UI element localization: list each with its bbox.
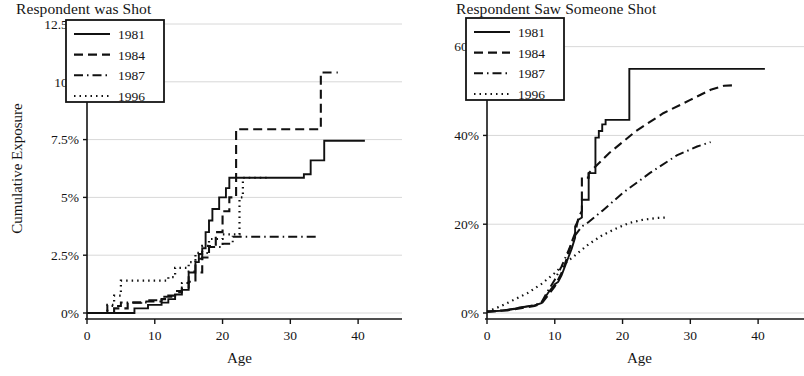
series-line-1996: [87, 178, 267, 313]
x-tick-label: 20: [216, 328, 230, 343]
x-tick-label: 0: [84, 328, 91, 343]
legend-box: [466, 18, 564, 100]
x-axis-title: Age: [227, 350, 252, 366]
series-line-1987: [487, 142, 711, 312]
y-tick-label: 7.5%: [51, 132, 79, 147]
y-axis-title: Cumulative Exposure: [9, 103, 25, 234]
x-axis-title: Age: [627, 350, 652, 366]
panel-respondent-saw-someone-shot: Respondent Saw Someone Shot 0%20%40%60%0…: [402, 0, 804, 376]
chart-svg-left: 0%2.5%5%7.5%10%12.5%010203040AgeCumulati…: [0, 0, 402, 376]
series-group: [487, 69, 765, 312]
legend: 1981198419871996: [466, 18, 564, 102]
legend-label-1981: 1981: [118, 27, 145, 42]
x-tick-label: 0: [484, 328, 491, 343]
legend-label-1996: 1996: [518, 87, 545, 102]
x-tick-label: 20: [616, 328, 630, 343]
legend-label-1996: 1996: [118, 89, 145, 104]
x-tick-label: 30: [684, 328, 698, 343]
figure-container: Respondent was Shot 0%2.5%5%7.5%10%12.5%…: [0, 0, 804, 376]
legend-label-1984: 1984: [518, 46, 545, 61]
y-tick-label: 0%: [61, 306, 79, 321]
y-tick-label: 40%: [454, 128, 479, 143]
panel-respondent-was-shot: Respondent was Shot 0%2.5%5%7.5%10%12.5%…: [0, 0, 402, 376]
x-tick-label: 10: [548, 328, 562, 343]
legend-label-1987: 1987: [518, 66, 545, 81]
series-line-1981: [87, 141, 365, 313]
y-tick-label: 5%: [61, 190, 79, 205]
legend-label-1984: 1984: [118, 48, 145, 63]
chart-svg-right: 0%20%40%60%010203040Age1981198419871996: [402, 0, 804, 376]
legend: 1981198419871996: [66, 20, 164, 104]
x-tick-label: 40: [751, 328, 765, 343]
x-tick-label: 30: [284, 328, 298, 343]
x-tick-label: 10: [148, 328, 162, 343]
y-tick-label: 0%: [461, 306, 479, 321]
x-axis-ticks: 010203040: [84, 319, 365, 343]
x-axis-ticks: 010203040: [484, 319, 765, 343]
y-tick-label: 2.5%: [51, 248, 79, 263]
series-group: [87, 73, 365, 313]
y-tick-label: 20%: [454, 217, 479, 232]
legend-label-1981: 1981: [518, 25, 545, 40]
series-line-1984: [87, 73, 338, 313]
x-tick-label: 40: [351, 328, 365, 343]
legend-label-1987: 1987: [118, 68, 145, 83]
legend-box: [66, 20, 164, 102]
